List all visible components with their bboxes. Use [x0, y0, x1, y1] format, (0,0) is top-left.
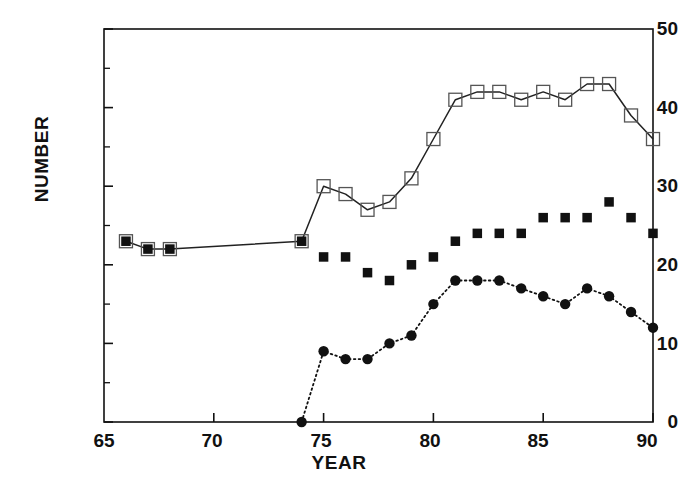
open-square-marker — [361, 203, 374, 216]
filled-square-marker — [407, 260, 417, 270]
filled-circle-marker — [516, 283, 526, 293]
filled-circle-marker — [560, 299, 570, 309]
filled-square-marker — [297, 236, 307, 246]
filled-square-marker — [604, 197, 614, 207]
open-square-marker — [449, 93, 462, 106]
open-square-marker — [559, 93, 572, 106]
open-square-marker — [537, 85, 550, 98]
filled-circle-marker — [296, 417, 306, 427]
filled-square-marker — [495, 229, 505, 239]
open-square-marker — [405, 172, 418, 185]
chart-figure: NUMBER YEAR 50 40 30 20 10 0 65 70 75 80… — [0, 0, 678, 488]
filled-circle-marker — [538, 291, 548, 301]
filled-circle-marker — [340, 354, 350, 364]
filled-square-marker — [429, 252, 439, 262]
open-square-marker — [581, 78, 594, 91]
axis-ticks — [104, 29, 653, 422]
plot-area — [0, 0, 678, 488]
filled-circle-marker — [450, 275, 460, 285]
data-series-layer — [119, 78, 659, 428]
filled-circle-marker — [406, 330, 416, 340]
open-square-series-line — [126, 84, 653, 249]
axis-frame — [104, 29, 653, 422]
filled-square-marker — [451, 236, 461, 246]
filled-circle-marker — [604, 291, 614, 301]
open-square-marker — [339, 188, 352, 201]
open-square-marker — [471, 85, 484, 98]
filled-square-marker — [363, 268, 373, 278]
filled-square-marker — [473, 229, 483, 239]
open-square-marker — [317, 180, 330, 193]
filled-square-marker — [516, 229, 526, 239]
filled-circle-marker — [362, 354, 372, 364]
filled-square-marker — [648, 229, 658, 239]
filled-circle-marker — [582, 283, 592, 293]
filled-square-marker — [385, 276, 395, 286]
open-square-marker — [647, 133, 660, 146]
open-square-marker — [625, 109, 638, 122]
filled-circle-marker — [384, 338, 394, 348]
filled-square-marker — [165, 244, 175, 254]
filled-square-marker — [538, 213, 548, 223]
filled-square-marker — [626, 213, 636, 223]
open-square-marker — [603, 78, 616, 91]
filled-square-marker — [560, 213, 570, 223]
filled-circle-marker — [648, 322, 658, 332]
filled-circle-marker — [494, 275, 504, 285]
filled-circle-series-line — [302, 281, 653, 423]
filled-circle-marker — [318, 346, 328, 356]
open-square-marker — [383, 195, 396, 208]
filled-square-marker — [582, 213, 592, 223]
filled-square-marker — [319, 252, 329, 262]
open-square-marker — [427, 133, 440, 146]
filled-circle-marker — [428, 299, 438, 309]
open-square-marker — [515, 93, 528, 106]
filled-circle-marker — [472, 275, 482, 285]
filled-square-marker — [121, 236, 130, 246]
open-square-marker — [493, 85, 506, 98]
filled-square-marker — [341, 252, 351, 262]
filled-circle-marker — [626, 307, 636, 317]
filled-square-marker — [143, 244, 153, 254]
